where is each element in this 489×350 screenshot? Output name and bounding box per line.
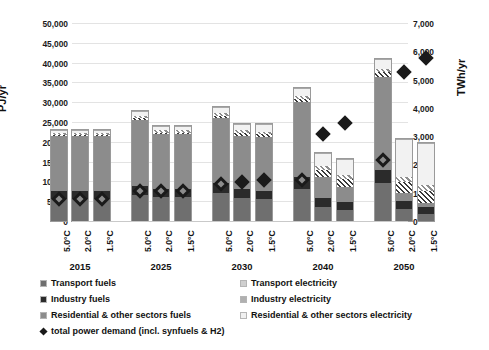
gridline	[72, 63, 408, 64]
bar-stack[interactable]	[93, 129, 111, 222]
bar-segment-rof	[153, 134, 169, 188]
x-tick-label-scenario: 5.0°C	[306, 230, 315, 252]
bar-segment-inf	[418, 207, 434, 214]
bar-segment-tf	[175, 197, 191, 221]
bar-stack[interactable]	[71, 129, 89, 222]
legend-label: Transport electricity	[251, 279, 337, 288]
legend-item-te[interactable]: Transport electricity	[240, 279, 337, 288]
legend-label: Residential & other sectors fuels	[51, 311, 191, 320]
y-tick-label-left: 50,000	[42, 20, 68, 28]
legend-swatch-icon	[40, 296, 47, 303]
x-tick-label-scenario: 1.5°C	[187, 230, 196, 252]
bar-segment-inf	[315, 198, 331, 207]
bar-segment-inf	[375, 170, 391, 183]
x-axis-group-label-year: 2015	[60, 262, 100, 271]
bar-segment-rof	[213, 118, 229, 183]
x-axis-group-label-year: 2040	[303, 262, 343, 271]
gridline	[72, 23, 408, 24]
x-tick-label-scenario: 1.5°C	[268, 230, 277, 252]
legend-label: Industry electricity	[251, 295, 331, 304]
bar-segment-rof	[132, 120, 148, 187]
legend-item-ie[interactable]: Industry electricity	[240, 295, 331, 304]
bar-segment-tf	[294, 189, 310, 221]
y-tick-label-right: 7,000	[413, 20, 434, 28]
legend-label: Industry fuels	[51, 295, 110, 304]
legend-item-marker[interactable]: total power demand (incl. synfuels & H2)	[40, 327, 225, 336]
bar-segment-rof	[94, 136, 110, 191]
bar-stack[interactable]	[174, 125, 192, 222]
bar-stack[interactable]	[293, 87, 311, 222]
bar-stack[interactable]	[233, 123, 251, 222]
bar-stack[interactable]	[374, 58, 392, 222]
chart-legend: Transport fuelsTransport electricityIndu…	[40, 279, 460, 343]
bar-segment-te	[337, 179, 353, 187]
overlay-marker-total-power-demand	[337, 115, 353, 131]
bar-segment-inf	[256, 191, 272, 199]
plot-area	[72, 24, 408, 222]
legend-swatch-icon	[40, 312, 47, 319]
bar-segment-tf	[337, 210, 353, 221]
x-tick-label-scenario: 2.0°C	[327, 230, 336, 252]
legend-swatch-icon	[40, 280, 47, 287]
bar-segment-te	[396, 182, 412, 193]
bar-segment-rof	[337, 187, 353, 202]
overlay-marker-total-power-demand	[396, 64, 412, 80]
y-tick-label-left: 25,000	[42, 119, 68, 127]
legend-swatch-icon	[240, 280, 247, 287]
bar-stack[interactable]	[417, 142, 435, 222]
bar-stack[interactable]	[212, 106, 230, 222]
y-tick-label-right: 3,000	[413, 133, 434, 141]
bar-segment-inf	[396, 201, 412, 209]
bar-stack[interactable]	[395, 138, 413, 222]
legend-item-rof[interactable]: Residential & other sectors fuels	[40, 311, 191, 320]
x-tick-label-scenario: 5.0°C	[144, 230, 153, 252]
bar-segment-roe	[375, 59, 391, 68]
y-tick-label-left: 35,000	[42, 79, 68, 87]
bar-segment-tf	[256, 199, 272, 221]
bar-segment-roe	[294, 88, 310, 96]
x-axis-group-label-year: 2025	[141, 262, 181, 271]
x-axis-baseline	[72, 221, 408, 222]
bar-segment-tf	[418, 214, 434, 221]
legend-item-inf[interactable]: Industry fuels	[40, 295, 110, 304]
bar-segment-roe	[315, 153, 331, 167]
bar-segment-roe	[418, 143, 434, 185]
bar-segment-te	[418, 191, 434, 203]
energy-demand-stacked-bar-chart: 05,00010,00015,00020,00025,00030,00035,0…	[0, 0, 489, 350]
bar-segment-roe	[337, 159, 353, 175]
bar-segment-te	[315, 170, 331, 177]
legend-item-roe[interactable]: Residential & other sectors electricity	[240, 311, 412, 320]
bar-stack[interactable]	[50, 129, 68, 222]
x-tick-label-scenario: 1.5°C	[349, 230, 358, 252]
x-axis-group-label-year: 2050	[384, 262, 424, 271]
bar-segment-rof	[396, 193, 412, 201]
bar-stack[interactable]	[152, 125, 170, 222]
bar-segment-tf	[213, 193, 229, 221]
x-tick-label-scenario: 2.0°C	[165, 230, 174, 252]
legend-label: Transport fuels	[51, 279, 116, 288]
bar-stack[interactable]	[314, 152, 332, 222]
bar-segment-inf	[234, 189, 250, 198]
bar-stack[interactable]	[336, 158, 354, 222]
x-tick-label-scenario: 5.0°C	[225, 230, 234, 252]
overlay-marker-total-power-demand	[315, 127, 331, 143]
x-axis-group-label-year: 2030	[222, 262, 262, 271]
x-tick-label-scenario: 2.0°C	[246, 230, 255, 252]
bar-segment-rof	[51, 136, 67, 191]
gridline	[72, 102, 408, 103]
y-tick-label-right: 5,000	[413, 77, 434, 85]
x-tick-label-scenario: 2.0°C	[84, 230, 93, 252]
bar-stack[interactable]	[131, 110, 149, 222]
x-tick-label-scenario: 5.0°C	[63, 230, 72, 252]
x-tick-label-scenario: 1.5°C	[106, 230, 115, 252]
y-tick-label-right: 4,000	[413, 105, 434, 113]
legend-swatch-icon	[240, 312, 247, 319]
bar-segment-rof	[315, 177, 331, 199]
bar-segment-inf	[337, 202, 353, 210]
bar-segment-rof	[72, 136, 88, 191]
legend-item-tf[interactable]: Transport fuels	[40, 279, 116, 288]
x-tick-label-scenario: 5.0°C	[387, 230, 396, 252]
y-tick-label-left: 45,000	[42, 40, 68, 48]
gridline	[72, 82, 408, 83]
legend-swatch-icon	[240, 296, 247, 303]
